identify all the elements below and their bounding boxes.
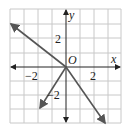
tick-label-y-pos: 2 [55, 32, 61, 46]
tick-label-y-neg: −2 [47, 88, 60, 102]
y-axis-label: y [68, 8, 75, 22]
origin-label: O [68, 53, 77, 67]
coordinate-graph: y x O 2 −2 2 −2 [0, 0, 130, 137]
tick-label-x-neg: −2 [25, 69, 38, 83]
tick-label-x-pos: 2 [90, 69, 96, 83]
x-axis-label: x [110, 52, 117, 66]
